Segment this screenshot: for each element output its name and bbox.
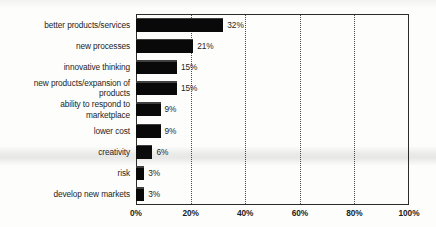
bar-highlight — [136, 81, 177, 83]
category-label-text: lower cost — [0, 126, 130, 136]
bar-value-label: 9% — [165, 126, 177, 135]
bar-row: lower cost9% — [0, 120, 436, 141]
bar[interactable] — [136, 60, 177, 74]
x-tick-label: 100% — [399, 208, 420, 218]
bar-value-label: 15% — [181, 63, 197, 72]
x-tick-label: 80% — [346, 208, 362, 218]
bar-value-label: 21% — [197, 41, 213, 50]
category-label-text: new processes — [0, 41, 130, 51]
x-tick-label: 0% — [130, 208, 142, 218]
bar-value-label: 32% — [227, 20, 243, 29]
bar[interactable] — [136, 166, 144, 180]
category-label-text: risk — [0, 168, 130, 178]
bar-highlight — [136, 39, 193, 41]
bar-row: ability to respond to marketplace9% — [0, 99, 436, 120]
bar-value-label: 3% — [148, 190, 160, 199]
bar-row: risk3% — [0, 163, 436, 184]
bar-row: innovative thinking15% — [0, 56, 436, 77]
category-label-text: develop new markets — [0, 189, 130, 199]
x-tick-label: 20% — [182, 208, 198, 218]
x-tick-label: 40% — [237, 208, 253, 218]
bar[interactable] — [136, 145, 152, 159]
bar-highlight — [136, 187, 144, 189]
category-label-text: ability to respond to marketplace — [0, 99, 130, 119]
category-label-text: new products/expansion of products — [0, 78, 130, 98]
horizontal-bar-chart: better products/services32%new processes… — [0, 0, 436, 227]
bar-row: new processes21% — [0, 35, 436, 56]
bar[interactable] — [136, 39, 193, 53]
bar-row: creativity6% — [0, 141, 436, 162]
category-label-text: better products/services — [0, 20, 130, 30]
bar[interactable] — [136, 187, 144, 201]
bar-value-label: 3% — [148, 169, 160, 178]
bar-value-label: 15% — [181, 84, 197, 93]
bar-highlight — [136, 166, 144, 168]
bar-highlight — [136, 145, 152, 147]
bar-row: better products/services32% — [0, 14, 436, 35]
bar-value-label: 6% — [156, 147, 168, 156]
bar-value-label: 9% — [165, 105, 177, 114]
bar-highlight — [136, 60, 177, 62]
bar[interactable] — [136, 18, 223, 32]
bar-row: new products/expansion of products15% — [0, 78, 436, 99]
bar-highlight — [136, 102, 161, 104]
bar-highlight — [136, 18, 223, 20]
x-tick-label: 60% — [292, 208, 308, 218]
bar-highlight — [136, 124, 161, 126]
bar[interactable] — [136, 81, 177, 95]
bar[interactable] — [136, 124, 161, 138]
bar[interactable] — [136, 102, 161, 116]
category-label-text: innovative thinking — [0, 62, 130, 72]
bar-row: develop new markets3% — [0, 184, 436, 205]
category-label-text: creativity — [0, 147, 130, 157]
